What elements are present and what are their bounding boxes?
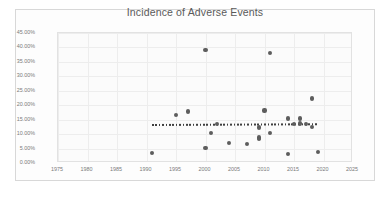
y-axis-tick-label: 45.00% [1,29,35,35]
scatter-point [245,142,249,146]
y-axis-tick-label: 35.00% [1,58,35,64]
gridline-vertical [235,33,236,161]
y-axis-tick-label: 25.00% [1,87,35,93]
gridline-vertical [294,33,295,161]
scatter-point [268,51,272,55]
gridline-horizontal [58,76,351,77]
y-axis-tick-label: 40.00% [1,43,35,49]
gridline-vertical [206,33,207,161]
scatter-point [298,121,302,125]
gridline-horizontal [58,105,351,106]
y-axis-tick-label: 0.00% [1,159,35,165]
chart-plot-wrapper: Incidence of Adverse Events 0.00%5.00%10… [0,0,390,198]
x-axis-tick-label: 1975 [51,166,63,172]
scatter-point [298,116,302,120]
x-axis-tick-label: 1980 [81,166,93,172]
x-axis-tick-label: 1990 [140,166,152,172]
x-axis-tick-label: 1995 [169,166,181,172]
x-axis-tick-label: 2025 [346,166,358,172]
scatter-point [304,122,308,126]
chart-title: Incidence of Adverse Events [0,6,390,18]
gridline-vertical [265,33,266,161]
scatter-point [286,116,290,120]
gridline-horizontal [58,62,351,63]
gridline-vertical [147,33,148,161]
gridline-vertical [117,33,118,161]
gridline-vertical [88,33,89,161]
scatter-point [316,150,320,154]
scatter-point [310,96,314,100]
gridline-horizontal [58,91,351,92]
scatter-point [203,146,207,150]
gridline-vertical [324,33,325,161]
plot-area [57,32,352,162]
gridline-vertical [176,33,177,161]
scatter-point [186,109,190,113]
scatter-point [310,125,314,129]
scatter-point [174,113,178,117]
scatter-point [257,125,261,129]
gridline-horizontal [58,134,351,135]
scatter-point [227,141,231,145]
y-axis-tick-label: 15.00% [1,116,35,122]
x-axis-tick-label: 2015 [287,166,299,172]
scatter-point [262,108,266,112]
y-axis-tick-label: 30.00% [1,72,35,78]
scatter-point [292,122,296,126]
x-axis-tick-label: 2005 [228,166,240,172]
y-axis-tick-label: 5.00% [1,145,35,151]
y-axis-tick-label: 20.00% [1,101,35,107]
scatter-point [150,151,154,155]
gridline-horizontal [58,120,351,121]
scatter-point [257,137,261,141]
y-axis-tick-label: 10.00% [1,130,35,136]
gridline-horizontal [58,33,351,34]
scatter-point [215,122,219,126]
x-axis-tick-label: 2020 [317,166,329,172]
x-axis-tick-label: 2000 [199,166,211,172]
gridline-vertical [58,33,59,161]
scatter-point [203,48,207,52]
x-axis-tick-label: 1985 [110,166,122,172]
x-axis-tick-label: 2010 [258,166,270,172]
scatter-point [286,152,290,156]
